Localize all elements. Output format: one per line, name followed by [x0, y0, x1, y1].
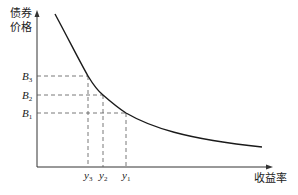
axes	[35, 10, 274, 170]
y-label-3: y3	[83, 169, 93, 183]
svg-text:y1: y1	[121, 169, 131, 183]
svg-text:B2: B2	[22, 89, 33, 103]
bond-price-yield-chart: 债券 价格 B3 B2 B1 y3 y2 y1 收益率	[0, 0, 298, 195]
svg-text:y3: y3	[83, 169, 93, 183]
svg-text:B3: B3	[22, 70, 33, 84]
b-label-3: B3	[22, 70, 33, 84]
x-axis-arrow-icon	[266, 165, 273, 170]
b-label-1: B1	[22, 107, 33, 121]
b-label-2: B2	[22, 89, 33, 103]
svg-text:B1: B1	[22, 107, 33, 121]
y-label-2: y2	[98, 169, 108, 183]
y-axis-title-line2: 价格	[10, 20, 32, 34]
svg-text:y2: y2	[98, 169, 108, 183]
dashed-guides	[37, 76, 126, 167]
y-label-1: y1	[121, 169, 131, 183]
price-yield-curve	[55, 14, 262, 147]
x-axis-title: 收益率	[254, 171, 287, 185]
y-axis-title-line1: 债券	[10, 6, 32, 20]
y-axis-arrow-icon	[35, 10, 40, 17]
